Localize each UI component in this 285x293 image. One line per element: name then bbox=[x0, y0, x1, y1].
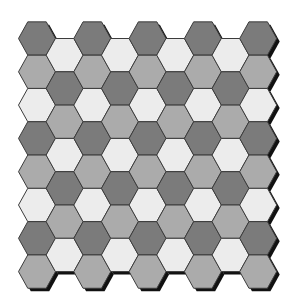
hex-grid-tiles bbox=[19, 22, 277, 288]
hex-grid-board bbox=[0, 0, 285, 293]
